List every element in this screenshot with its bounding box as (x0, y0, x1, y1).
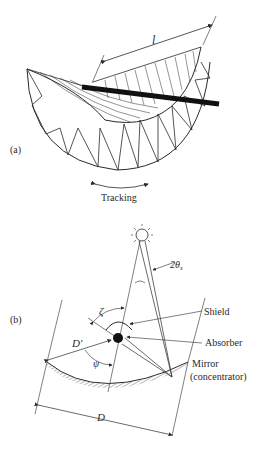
optical-axis (108, 241, 140, 392)
d-label: D (96, 411, 105, 423)
shield (106, 322, 132, 330)
sun-angle-label: 2θs (170, 259, 183, 272)
tracking-label: Tracking (101, 192, 137, 203)
panel-a-parabolic-trough (27, 16, 219, 188)
sun-ray-1 (139, 241, 172, 377)
tracking-arrow (95, 184, 148, 188)
solar-concentrator-diagram: l (a) Tracking (0, 0, 267, 453)
zeta-label: ζ (99, 305, 105, 318)
shield-leader (130, 311, 202, 324)
panel-b-label: (b) (10, 314, 22, 326)
d-prime-label: D′ (71, 337, 83, 349)
aperture-dimension-arrow (38, 405, 172, 435)
absorber-label: Absorber (205, 337, 243, 348)
length-label: l (152, 33, 156, 47)
panel-a-label: (a) (10, 144, 21, 156)
mirror-label: Mirror (192, 358, 219, 369)
absorber (113, 333, 123, 343)
shield-label: Shield (204, 306, 230, 317)
concentrator-label: (concentrator) (190, 371, 247, 383)
shield-angle-arc (93, 308, 124, 322)
length-dimension-arrow (105, 25, 212, 61)
panel-b-cross-section (35, 224, 205, 436)
sun-icon (131, 224, 153, 242)
psi-label: ψ (93, 358, 100, 369)
sun-ray-2 (145, 241, 172, 377)
